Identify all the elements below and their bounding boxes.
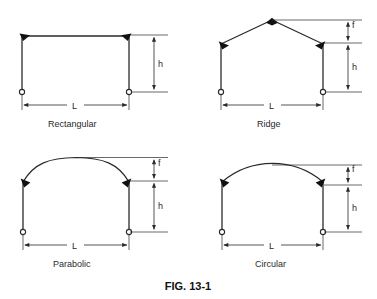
parabolic-frame-label: Parabolic bbox=[53, 259, 91, 269]
circular-frame-label: Circular bbox=[255, 259, 286, 269]
rectangular-h-label: h bbox=[158, 59, 163, 69]
rectangular-left-pin-support bbox=[19, 89, 24, 94]
ridge-left-pin-support bbox=[218, 89, 223, 94]
parabolic-l-label: L bbox=[72, 241, 77, 251]
circular-left-pin-support bbox=[219, 229, 224, 234]
figure-caption: FIG. 13-1 bbox=[165, 280, 211, 292]
rectangular-right-pin-support bbox=[126, 89, 131, 94]
rectangular-l-label: L bbox=[72, 101, 77, 111]
circular-h-label: h bbox=[352, 203, 357, 213]
ridge-frame-label: Ridge bbox=[257, 119, 281, 129]
parabolic-h-label: h bbox=[158, 201, 163, 211]
ridge-l-label: L bbox=[269, 101, 274, 111]
ridge-h-label: h bbox=[352, 62, 357, 72]
rectangular-frame-label: Rectangular bbox=[48, 119, 97, 129]
parabolic-left-pin-support bbox=[20, 229, 25, 234]
circular-l-label: L bbox=[269, 241, 274, 251]
figure-13-1: h L Rectangular f h bbox=[0, 0, 377, 299]
ridge-right-pin-support bbox=[320, 89, 325, 94]
